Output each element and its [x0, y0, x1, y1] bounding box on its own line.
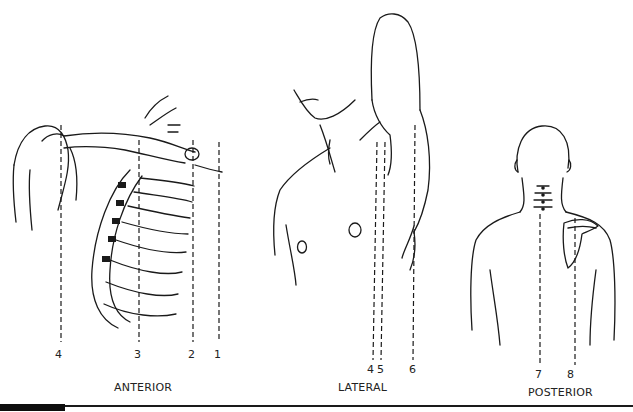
line-number-anterior-1: 1 — [214, 348, 221, 361]
line-number-posterior-7: 7 — [535, 368, 542, 381]
line-number-anterior-2: 2 — [188, 348, 195, 361]
line-number-anterior-4: 4 — [55, 348, 62, 361]
caption-lateral: LATERAL — [338, 381, 387, 394]
anatomical-figure: 4 3 2 1 4 5 6 7 8 ANTERIOR LATERAL POSTE… — [0, 0, 633, 412]
cervical-vertebrae-icon — [534, 186, 552, 211]
line-number-lateral-5: 5 — [377, 363, 384, 376]
line-number-lateral-6: 6 — [409, 363, 416, 376]
line-number-lateral-4: 4 — [367, 363, 374, 376]
line-number-posterior-8: 8 — [567, 368, 574, 381]
caption-posterior: POSTERIOR — [528, 386, 593, 399]
bottom-rule-thin — [65, 405, 633, 407]
lateral-drawing — [274, 14, 430, 360]
anterior-drawing — [13, 96, 222, 342]
caption-anterior: ANTERIOR — [114, 381, 172, 394]
posterior-drawing — [471, 126, 615, 365]
line-number-anterior-3: 3 — [134, 348, 141, 361]
anatomy-drawing — [0, 0, 633, 412]
bottom-rule-thick — [0, 404, 65, 411]
